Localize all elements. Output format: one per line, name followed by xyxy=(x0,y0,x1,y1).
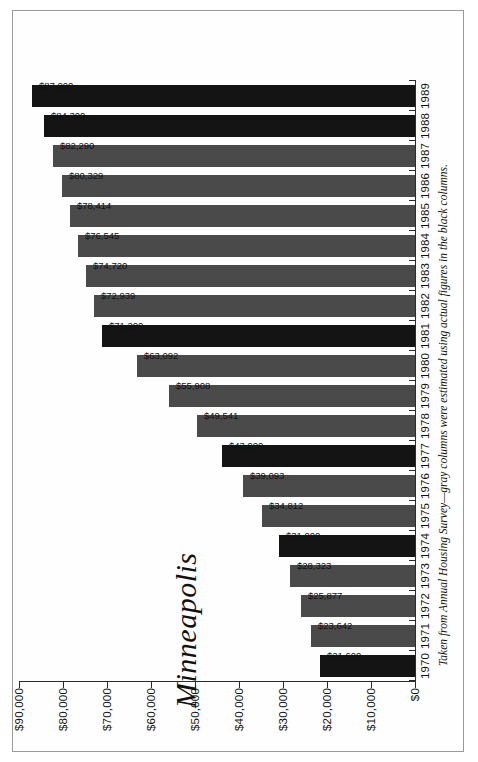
bar-value-label: $72,939 xyxy=(101,290,135,301)
bar-value-label: $49,541 xyxy=(204,410,238,421)
y-axis-tick xyxy=(415,681,416,688)
x-axis-tick-label: 1988 xyxy=(419,113,431,139)
bar-value-label: $78,414 xyxy=(77,200,111,211)
y-axis-tick-label: $60,000 xyxy=(145,688,157,731)
bar-group xyxy=(137,355,415,377)
bar-value-label: $76,545 xyxy=(85,230,119,241)
x-axis-line xyxy=(415,81,416,682)
x-axis-tick-label: 1975 xyxy=(419,503,431,529)
y-axis-tick xyxy=(19,681,20,688)
y-axis-tick xyxy=(151,681,152,688)
y-axis-tick xyxy=(63,681,64,688)
bar-value-label: $39,093 xyxy=(250,470,284,481)
bar-value-label: $84,300 xyxy=(51,110,85,121)
x-axis-tick xyxy=(409,260,416,261)
x-axis-tick-label: 1979 xyxy=(419,383,431,409)
x-axis-tick xyxy=(409,650,416,651)
x-axis-tick xyxy=(409,560,416,561)
x-axis-tick-label: 1989 xyxy=(419,83,431,109)
x-axis-tick xyxy=(409,140,416,141)
x-axis-tick-label: 1973 xyxy=(419,563,431,589)
x-axis-tick xyxy=(409,410,416,411)
y-axis-line xyxy=(19,681,415,682)
bar-value-label: $80,329 xyxy=(69,170,103,181)
x-axis-tick-label: 1987 xyxy=(419,143,431,169)
bar-value-label: $25,877 xyxy=(308,590,342,601)
x-axis-tick-label: 1977 xyxy=(419,443,431,469)
bar-value-label: $55,908 xyxy=(176,380,210,391)
y-axis-tick-label: $40,000 xyxy=(233,688,245,731)
y-axis-tick-label: $30,000 xyxy=(277,688,289,731)
x-axis-tick-label: 1984 xyxy=(419,233,431,259)
bar-group xyxy=(102,325,415,347)
y-axis-tick-label: $90,000 xyxy=(13,688,25,731)
bar-1980[interactable] xyxy=(137,355,415,377)
y-axis-tick-label: $0 xyxy=(409,688,421,701)
x-axis-tick-label: 1972 xyxy=(419,593,431,619)
y-axis-tick xyxy=(107,681,108,688)
bar-group xyxy=(70,205,415,227)
bar-value-label: $31,000 xyxy=(286,530,320,541)
bar-value-label: $21,600 xyxy=(327,650,361,661)
x-axis-tick-label: 1983 xyxy=(419,263,431,289)
x-axis-tick-label: 1986 xyxy=(419,173,431,199)
x-axis-tick-label: 1976 xyxy=(419,473,431,499)
bar-1981[interactable] xyxy=(102,325,415,347)
x-axis-tick-label: 1982 xyxy=(419,293,431,319)
bar-1985[interactable] xyxy=(70,205,415,227)
x-axis-tick-label: 1985 xyxy=(419,203,431,229)
y-axis-tick-label: $20,000 xyxy=(321,688,333,731)
bar-1986[interactable] xyxy=(62,175,415,197)
x-axis-tick xyxy=(409,620,416,621)
x-axis-tick xyxy=(409,170,416,171)
y-axis-tick xyxy=(239,681,240,688)
x-axis-tick-label: 1971 xyxy=(419,623,431,649)
x-axis-tick xyxy=(409,530,416,531)
bar-value-label: $34,812 xyxy=(269,500,303,511)
rotated-figure: Minneapolis $90,000$80,000$70,000$60,000… xyxy=(19,18,457,744)
y-axis-tick xyxy=(327,681,328,688)
x-axis-tick-label: 1970 xyxy=(419,653,431,679)
x-axis-tick xyxy=(409,470,416,471)
y-axis-tick xyxy=(371,681,372,688)
page-frame: Minneapolis $90,000$80,000$70,000$60,000… xyxy=(12,10,464,752)
bar-1984[interactable] xyxy=(78,235,415,257)
y-axis-tick xyxy=(283,681,284,688)
x-axis-tick xyxy=(409,440,416,441)
bar-1982[interactable] xyxy=(94,295,415,317)
y-axis-labels: $90,000$80,000$70,000$60,000$50,000$40,0… xyxy=(19,682,415,744)
bar-value-label: $87,000 xyxy=(39,80,73,91)
x-axis-tick-label: 1974 xyxy=(419,533,431,559)
x-axis-tick-label: 1981 xyxy=(419,323,431,349)
x-axis-tick xyxy=(409,350,416,351)
bar-group xyxy=(78,235,415,257)
x-axis-tick xyxy=(409,380,416,381)
x-axis-tick xyxy=(409,320,416,321)
bar-value-label: $43,900 xyxy=(229,440,263,451)
x-axis-tick xyxy=(409,110,416,111)
x-axis-tick xyxy=(409,290,416,291)
x-axis-tick xyxy=(409,230,416,231)
bar-value-label: $74,720 xyxy=(93,260,127,271)
y-axis-tick-label: $80,000 xyxy=(57,688,69,731)
x-axis-tick-label: 1978 xyxy=(419,413,431,439)
bar-1989[interactable] xyxy=(32,85,415,107)
bar-1988[interactable] xyxy=(44,115,415,137)
bar-group xyxy=(94,295,415,317)
x-axis-tick xyxy=(409,680,416,681)
bar-group xyxy=(32,85,415,107)
bar-group xyxy=(53,145,415,167)
y-axis-tick-label: $70,000 xyxy=(101,688,113,731)
x-axis-tick xyxy=(409,80,416,81)
bar-value-label: $82,290 xyxy=(60,140,94,151)
bar-group xyxy=(44,115,415,137)
bar-1987[interactable] xyxy=(53,145,415,167)
bar-value-label: $63,092 xyxy=(144,350,178,361)
chart-footnote: Taken from Annual Housing Survey—gray co… xyxy=(437,164,449,666)
bar-value-label: $71,200 xyxy=(109,320,143,331)
bar-group xyxy=(62,175,415,197)
x-axis-tick-label: 1980 xyxy=(419,353,431,379)
bar-1983[interactable] xyxy=(86,265,415,287)
x-axis-tick xyxy=(409,590,416,591)
bar-value-label: $23,642 xyxy=(318,620,352,631)
